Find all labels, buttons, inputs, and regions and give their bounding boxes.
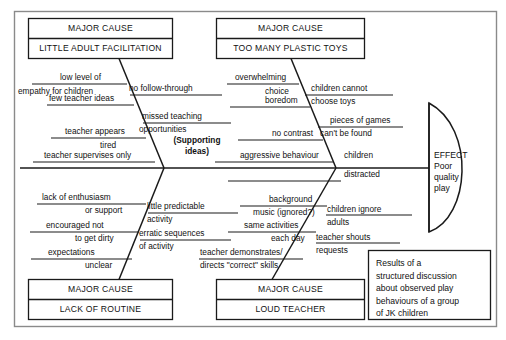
cause-pieces-of-games: pieces of games [330,116,390,126]
category-name-too-many-plastic-toys: TOO MANY PLASTIC TOYS [216,43,365,53]
cause-missed-teaching: missed teaching [142,112,202,122]
cause-few-teacher-ideas: few teacher ideas [49,94,114,104]
category-heading-too-many-plastic-toys: MAJOR CAUSE [216,23,365,33]
note-line-5: of JK children [376,307,428,320]
cause-requests: requests [316,246,348,256]
cause-activity: activity [147,215,172,225]
cause-children: children [344,151,373,161]
effect-heading: EFFECT [434,150,467,161]
category-name-lack-of-routine: LACK OF ROUTINE [28,304,173,314]
category-name-loud-teacher: LOUD TEACHER [216,304,365,314]
category-heading-loud-teacher: MAJOR CAUSE [216,284,365,294]
cause-overwhelming: overwhelming [235,73,286,83]
cause-background: background [269,195,312,205]
cause-no-follow-through: no follow-through [129,84,193,94]
category-heading-little-adult-facilitation: MAJOR CAUSE [28,23,173,33]
cause-teacher-demonstrates: teacher demonstrates/ [200,248,283,258]
cause-directs-correct-skills: directs "correct" skills [200,261,278,271]
category-name-little-adult-facilitation: LITTLE ADULT FACILITATION [28,43,173,53]
supporting-ideas-label-line2: ideas) [158,146,236,156]
cause-children-ignore: children ignore [327,205,381,215]
cause-same-activities: same activities [244,221,298,231]
effect-line-poor: Poor [434,161,452,172]
cause-distracted: distracted [344,170,380,180]
category-heading-lack-of-routine: MAJOR CAUSE [28,284,173,294]
cause-teacher-appears: teacher appears [65,127,125,137]
cause-expectations: expectations [48,248,95,258]
cause-little-predictable: little predictable [147,202,205,212]
cause-lack-of-enthusiasm: lack of enthusiasm [42,193,111,203]
note-line-2: structured discussion [376,270,457,283]
cause-choose-toys: choose toys [311,97,355,107]
cause-of-activity: of activity [139,242,174,252]
effect-line-quality: quality [434,172,459,183]
cause-aggressive-behaviour: aggressive behaviour [240,151,319,161]
cause-low-level-of: low level of [60,73,101,83]
cause-erratic-sequences: erratic sequences [139,229,205,239]
note-line-1: Results of a [376,257,421,270]
cause-teacher-supervises-only: teacher supervises only [44,151,131,161]
note-line-3: about observed play [376,282,453,295]
supporting-ideas-label-line1: (Supporting [158,135,236,145]
cause-boredom: boredom [265,96,298,106]
effect-line-play: play [434,183,450,194]
cause-to-get-dirty: to get dirty [75,234,114,244]
cause-missed-teaching-opportunities: opportunities [139,125,187,135]
cause-or-support: or support [85,206,122,216]
cause-teacher-shouts: teacher shouts [316,233,370,243]
fishbone-diagram-page: MAJOR CAUSE LITTLE ADULT FACILITATION lo… [0,0,506,340]
cause-encouraged-not: encouraged not [46,221,104,231]
cause-each-day: each day [271,234,305,244]
cause-children-cannot: children cannot [311,84,367,94]
cause-music-ignored: music (ignored?) [253,208,315,218]
cause-unclear: unclear [85,261,112,271]
cause-adults: adults [327,218,349,228]
note-line-4: behaviours of a group [376,295,459,308]
cause-cant-be-found: can't be found [320,129,372,139]
cause-no-contrast: no contrast [272,129,313,139]
